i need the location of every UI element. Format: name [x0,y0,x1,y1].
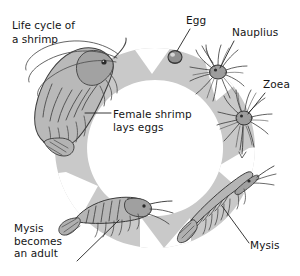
leader-line-mysis [222,206,249,243]
figure-title-line-1: Life cycle of [12,19,75,31]
stage-label-mysis-becomes-adult: Mysis becomes an adult [14,222,62,260]
figure-title: Life cycle of a shrimp [12,18,75,46]
stage-label-mysis: Mysis [250,239,280,252]
female-label-line-2: lays eggs [113,121,164,133]
mysis-adult-line-2: becomes [14,235,62,247]
leader-line-mysis-adult [77,220,119,261]
stage-label-female-lays-eggs: Female shrimp lays eggs [113,108,192,133]
stage-label-nauplius: Nauplius [232,26,278,39]
leader-line-zoea [248,93,265,114]
leader-line-egg [177,29,190,51]
female-label-line-1: Female shrimp [113,108,192,120]
mysis-adult-line-1: Mysis [14,222,44,234]
stage-label-zoea: Zoea [263,78,290,91]
stage-label-egg: Egg [186,14,206,27]
mysis-adult-line-3: an adult [14,247,58,259]
leader-line-nauplius [220,41,234,68]
figure-title-line-2: a shrimp [12,33,58,45]
shrimp-life-cycle-figure: Life cycle of a shrimp Egg Nauplius Zoea… [0,0,300,276]
